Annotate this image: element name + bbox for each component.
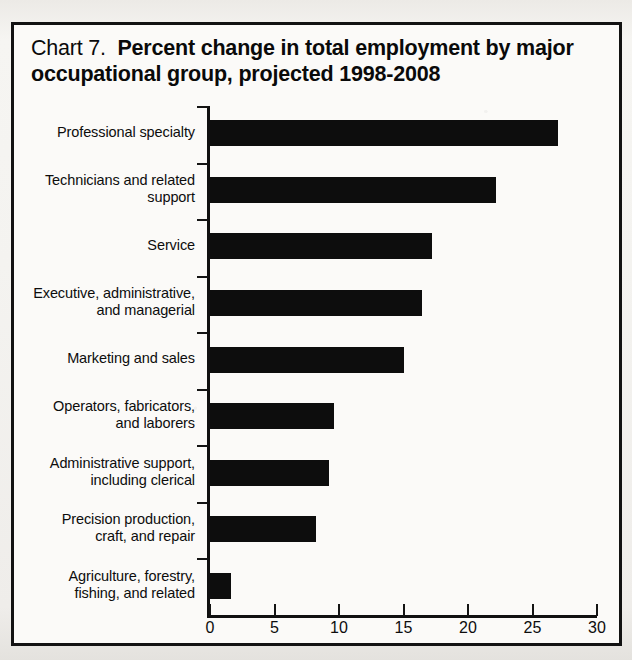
category-label: Professional specialty [11, 124, 195, 141]
category-label: Operators, fabricators,and laborers [11, 398, 195, 432]
y-axis-tick [197, 332, 208, 334]
y-axis-tick [197, 502, 208, 504]
category-label: Marketing and sales [11, 350, 195, 367]
bar [210, 177, 496, 203]
bar [210, 347, 404, 373]
bar [210, 516, 316, 542]
category-label: Agriculture, forestry,fishing, and relat… [11, 568, 195, 602]
category-label-line: Professional specialty [11, 124, 195, 141]
plot-area: Percent change 051015202530Professional … [14, 25, 619, 643]
category-label-line: Administrative support, [11, 455, 195, 472]
category-label-line: Operators, fabricators, [11, 398, 195, 415]
x-axis-title: Percent change [207, 642, 597, 646]
x-axis-tick [209, 604, 211, 616]
x-axis-tick [596, 604, 598, 616]
category-label-line: Executive, administrative, [11, 285, 195, 302]
category-label-line: Agriculture, forestry, [11, 568, 195, 585]
category-label: Service [11, 237, 195, 254]
category-label-line: Marketing and sales [11, 350, 195, 367]
category-label-line: fishing, and related [11, 585, 195, 602]
y-axis-tick [197, 163, 208, 165]
category-label-line: and laborers [11, 415, 195, 432]
category-label-line: Technicians and related [11, 172, 195, 189]
x-axis-tick [274, 604, 276, 616]
category-label-line: Service [11, 237, 195, 254]
page-background: Chart 7. Percent change in total employm… [0, 0, 632, 660]
y-axis-tick [197, 276, 208, 278]
x-axis-tick [532, 604, 534, 616]
bar [210, 290, 422, 316]
x-axis-tick-label: 0 [190, 619, 230, 637]
y-axis-tick [197, 106, 208, 108]
category-label-line: craft, and repair [11, 528, 195, 545]
y-axis-tick [197, 219, 208, 221]
bar [210, 573, 231, 599]
x-axis-tick [467, 604, 469, 616]
y-axis-tick [197, 445, 208, 447]
x-axis-tick-label: 10 [319, 619, 359, 637]
x-axis-tick-label: 5 [255, 619, 295, 637]
category-label-line: Precision production, [11, 511, 195, 528]
category-label: Executive, administrative,and managerial [11, 285, 195, 319]
bar [210, 460, 329, 486]
bar [210, 233, 432, 259]
category-label-line: support [11, 189, 195, 206]
category-label: Administrative support,including clerica… [11, 455, 195, 489]
bar [210, 120, 558, 146]
x-axis-tick [403, 604, 405, 616]
x-axis-tick-label: 30 [577, 619, 617, 637]
x-axis-tick [338, 604, 340, 616]
category-label-line: and managerial [11, 302, 195, 319]
x-axis-tick-label: 20 [448, 619, 488, 637]
category-label: Precision production,craft, and repair [11, 511, 195, 545]
y-axis-tick [197, 558, 208, 560]
chart-figure-frame: Chart 7. Percent change in total employm… [11, 22, 622, 646]
category-label-line: including clerical [11, 472, 195, 489]
x-axis-tick-label: 15 [384, 619, 424, 637]
y-axis-tick [197, 389, 208, 391]
category-label: Technicians and relatedsupport [11, 172, 195, 206]
x-axis-tick-label: 25 [513, 619, 553, 637]
bar [210, 403, 334, 429]
